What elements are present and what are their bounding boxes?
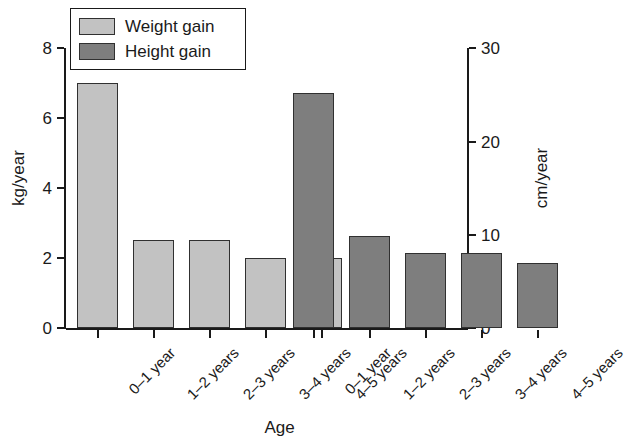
right-tick-30 [469,47,476,49]
left-tick-label-6: 6 [30,110,52,127]
x-tick-h1 [369,330,371,338]
bar-weight-1-2-years [133,240,174,328]
left-tick-3 [57,117,64,119]
bar-height-3-4-years [461,253,502,328]
x-label-weight-0: 0–1 year [125,344,178,397]
x-tick-w4 [321,330,323,338]
x-tick-h4 [537,330,539,338]
x-label-weight-3: 3–4 years [295,344,354,403]
x-tick-h0 [313,330,315,338]
legend-label-height-gain: Height gain [125,43,211,60]
x-tick-h3 [481,330,483,338]
x-label-height-3: 3–4 years [511,344,570,403]
left-axis-line [64,48,66,329]
bar-height-0-1-year [293,93,334,328]
legend-item-weight-gain: Weight gain [79,14,237,39]
x-label-height-2: 2–3 years [455,344,514,403]
left-tick-label-2: 2 [30,250,52,267]
legend-swatch-height-gain [79,43,115,60]
right-tick-20 [469,141,476,143]
x-label-weight-1: 1–2 years [183,344,242,403]
bar-height-1-2-years [349,236,390,328]
x-label-weight-2: 2–3 years [239,344,298,403]
bar-height-4-5-years [517,263,558,328]
right-tick-label-20: 20 [481,134,500,151]
bar-height-2-3-years [405,253,446,328]
left-tick-label-4: 4 [30,180,52,197]
left-tick-2 [57,187,64,189]
right-axis-title: cm/year [532,128,552,228]
x-axis-line [66,328,468,330]
x-label-height-4: 4–5 years [567,344,626,403]
left-tick-label-0: 0 [30,320,52,337]
left-tick-1 [57,257,64,259]
x-tick-h2 [425,330,427,338]
x-axis-title: Age [0,418,559,438]
x-tick-w1 [153,330,155,338]
x-tick-w2 [209,330,211,338]
legend-label-weight-gain: Weight gain [125,18,214,35]
bar-weight-2-3-years [189,240,230,328]
bar-weight-3-4-years [245,258,286,328]
right-tick-10 [469,234,476,236]
x-tick-w0 [97,330,99,338]
x-tick-w3 [265,330,267,338]
bar-weight-0-1-year [77,83,118,328]
legend-swatch-weight-gain [79,18,115,35]
right-tick-label-30: 30 [481,40,500,57]
left-axis-title: kg/year [9,128,29,228]
x-label-height-1: 1–2 years [399,344,458,403]
left-tick-0 [57,327,64,329]
left-tick-label-8: 8 [30,40,52,57]
left-tick-4 [57,47,64,49]
legend-item-height-gain: Height gain [79,39,237,64]
right-tick-label-10: 10 [481,227,500,244]
chart-legend: Weight gain Height gain [70,8,246,70]
